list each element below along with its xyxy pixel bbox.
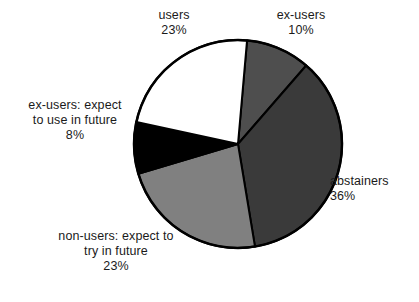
pie-label-ex-users-future-value: 8% bbox=[10, 128, 140, 143]
pie-label-non-users-future-line2: try in future bbox=[28, 244, 204, 259]
pie-label-users-value: 23% bbox=[126, 23, 222, 38]
pie-label-abstainers-value: 36% bbox=[330, 189, 418, 204]
pie-label-ex-users: ex-users 10% bbox=[246, 8, 356, 38]
pie-slices-group bbox=[134, 40, 342, 248]
pie-label-ex-users-future-line2: to use in future bbox=[10, 113, 140, 128]
pie-label-ex-users-name: ex-users bbox=[246, 8, 356, 23]
pie-label-abstainers: abstainers 36% bbox=[330, 174, 418, 204]
pie-label-non-users-future: non-users: expect to try in future 23% bbox=[28, 229, 204, 274]
pie-label-non-users-future-value: 23% bbox=[28, 259, 204, 274]
pie-label-users-name: users bbox=[126, 8, 222, 23]
pie-chart-figure: users 23% ex-users 10% abstainers 36% ex… bbox=[0, 0, 419, 302]
pie-label-non-users-future-line1: non-users: expect to bbox=[28, 229, 204, 244]
pie-label-ex-users-future: ex-users: expect to use in future 8% bbox=[10, 98, 140, 143]
pie-label-ex-users-value: 10% bbox=[246, 23, 356, 38]
pie-label-ex-users-future-line1: ex-users: expect bbox=[10, 98, 140, 113]
pie-label-users: users 23% bbox=[126, 8, 222, 38]
pie-label-abstainers-name: abstainers bbox=[330, 174, 418, 189]
